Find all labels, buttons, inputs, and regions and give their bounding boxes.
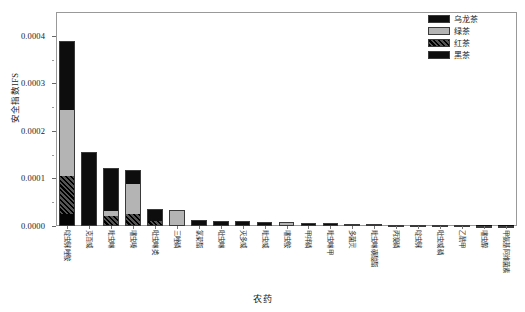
bar-column[interactable] (103, 168, 119, 226)
bar-segment[interactable] (81, 152, 97, 226)
x-axis-title: 农药 (0, 292, 525, 305)
x-tick-label: 灭多威 (239, 230, 246, 249)
x-tick-label: 吡虫威磷 (437, 230, 444, 255)
bar-segment[interactable] (125, 214, 141, 226)
bar-column[interactable] (125, 170, 141, 226)
bar-column[interactable] (59, 41, 75, 226)
x-tick-label: 噻虫醇 (480, 230, 487, 249)
legend-label: 红茶 (454, 37, 470, 48)
x-tick-label: 乙酰甲 (459, 230, 466, 249)
x-tick-label: 三唑磷 (173, 230, 180, 249)
y-tick-label: 0.0001 (21, 174, 45, 182)
y-tick-label: 0.0003 (21, 79, 45, 87)
x-tick-mark (265, 226, 266, 229)
x-axis-ticklabels: 啶虫脒唑胺克百威毗虫啉噻虫嗪吡虫啉类三唑磷氯菊酯吡虫啉灭多威毗虫威噻虫胺甲拌磷毗… (56, 230, 517, 292)
x-tick-label: 克百威 (85, 230, 92, 249)
x-tick-mark (111, 226, 112, 229)
bar-segment[interactable] (59, 41, 75, 110)
bar-segment[interactable] (59, 214, 75, 226)
x-tick-label: 丙溴磷 (393, 230, 400, 249)
x-tick-mark (287, 226, 288, 229)
legend-item[interactable]: 乌龙茶 (428, 13, 516, 24)
x-tick-mark (418, 226, 419, 229)
bar-column[interactable] (81, 152, 97, 226)
bar-segment[interactable] (169, 210, 185, 226)
x-tick-label: 毗虫威 (261, 230, 268, 249)
x-tick-label: 吡虫啉类 (151, 230, 158, 255)
y-minor-tick-mark (52, 202, 54, 203)
x-tick-mark (330, 226, 331, 229)
y-minor-tick-mark (52, 107, 54, 108)
x-tick-label: 噻虫胺 (283, 230, 290, 249)
x-tick-label: 多菌灵 (349, 230, 356, 249)
bar-segment[interactable] (103, 211, 119, 215)
x-tick-mark (67, 226, 68, 229)
bar-segment[interactable] (59, 110, 75, 177)
x-tick-mark (155, 226, 156, 229)
x-tick-mark (374, 226, 375, 229)
bar-segment[interactable] (103, 216, 119, 226)
bar-segment[interactable] (103, 168, 119, 211)
y-tick-label: 0.0004 (21, 32, 45, 40)
x-tick-label: 噻虫嗪 (129, 230, 136, 249)
x-tick-mark (440, 226, 441, 229)
x-tick-mark (308, 226, 309, 229)
x-tick-label: 啶虫脒唑胺 (63, 230, 70, 261)
x-tick-mark (133, 226, 134, 229)
bar-column[interactable] (169, 210, 185, 226)
bar-segment[interactable] (125, 170, 141, 184)
legend-swatch-icon (428, 51, 450, 59)
x-tick-label: 毗虫啉 (107, 230, 114, 249)
x-tick-label: 吡虫啉 (217, 230, 224, 249)
legend-item[interactable]: 红茶 (428, 37, 516, 48)
bar-segment[interactable] (147, 209, 163, 220)
x-tick-label: 毗虫啉磺酸酯 (371, 230, 378, 267)
x-tick-mark (396, 226, 397, 229)
legend-item[interactable]: 黑茶 (428, 49, 516, 60)
legend-swatch-icon (428, 15, 450, 23)
bar-column[interactable] (147, 209, 163, 226)
legend-swatch-icon (428, 27, 450, 35)
x-tick-mark (243, 226, 244, 229)
x-tick-mark (199, 226, 200, 229)
chart-legend: 乌龙茶绿茶红茶黑茶 (428, 13, 516, 61)
x-tick-mark (352, 226, 353, 229)
bar-segment[interactable] (279, 222, 295, 223)
y-tick-label: 0.0000 (21, 222, 45, 230)
legend-item[interactable]: 绿茶 (428, 25, 516, 36)
stacked-bar-chart: 0.00000.00010.00020.00030.0004 安全指数IFS 啶… (0, 0, 525, 312)
x-tick-mark (462, 226, 463, 229)
legend-label: 黑茶 (454, 49, 470, 60)
x-tick-mark (89, 226, 90, 229)
x-tick-label: 甲拌磷 (305, 230, 312, 249)
x-tick-mark (506, 226, 507, 229)
x-tick-label: 毗虫啉甲 (327, 230, 334, 255)
legend-swatch-icon (428, 39, 450, 47)
y-tick-label: 0.0002 (21, 127, 45, 135)
x-tick-label: 啶虫脒 (415, 230, 422, 249)
y-minor-tick-mark (52, 155, 54, 156)
x-tick-mark (484, 226, 485, 229)
legend-label: 绿茶 (454, 25, 470, 36)
x-tick-mark (221, 226, 222, 229)
x-tick-label: 甲氨基阿维菌素 (502, 230, 509, 273)
bar-segment[interactable] (59, 176, 75, 214)
x-tick-label: 氯菊酯 (195, 230, 202, 249)
y-axis-title: 安全指数IFS (8, 58, 20, 138)
y-minor-tick-mark (52, 60, 54, 61)
x-tick-mark (177, 226, 178, 229)
legend-label: 乌龙茶 (454, 13, 479, 24)
bar-segment[interactable] (125, 184, 141, 213)
